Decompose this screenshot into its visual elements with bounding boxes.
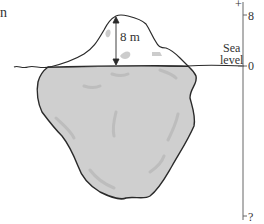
depth-axis [238,2,247,220]
axis-tick-label-bottom: ? [248,211,253,223]
sea-label-line2: level [220,54,243,66]
sea-level-label: Sea level [220,42,243,66]
axis-tick-label-sea-level: 0 [248,60,254,72]
height-label: 8 m [120,31,140,43]
partial-text: n [0,7,7,19]
axis-positive-marker: + [235,0,242,10]
axis-tick-label-top: 8 [248,10,254,22]
